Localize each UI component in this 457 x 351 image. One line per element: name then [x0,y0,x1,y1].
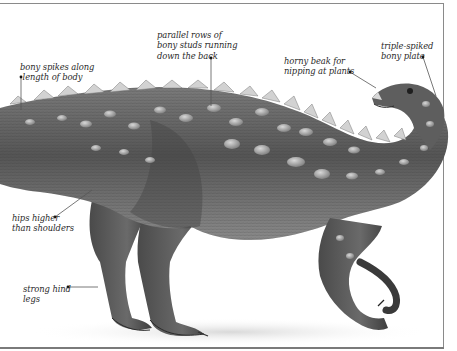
label-hips: hips higher than shoulders [12,213,74,234]
label-hind-legs: strong hind legs [23,284,71,305]
label-triple-spiked-plate: triple-spiked bony plate [381,41,433,62]
label-horny-beak: horny beak for nipping at plants [284,56,354,77]
eye [407,88,413,94]
label-bony-studs: parallel rows of bony studs running down… [157,30,237,61]
front-leg [318,218,396,330]
label-bony-spikes: bony spikes along length of body [20,62,94,83]
